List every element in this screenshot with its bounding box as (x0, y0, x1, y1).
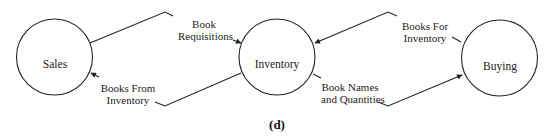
flow-label-books-from-inventory: Books From Inventory (100, 82, 156, 106)
flow-label-line: Books For (400, 20, 450, 32)
sales-node (17, 19, 93, 95)
flow-book-requisitions-line (90, 12, 173, 43)
flow-label-line: Requisitions (178, 30, 230, 42)
flow-book-names-line (378, 75, 462, 106)
flow-label-line: Inventory (100, 94, 156, 106)
flow-label-book-requisitions: Book Requisitions (178, 18, 230, 42)
flow-label-line: and Quantities (321, 93, 379, 105)
flow-label-line: Inventory (400, 32, 450, 44)
inventory-label: Inventory (255, 58, 300, 70)
inventory-node (239, 19, 315, 95)
figure-caption: (d) (269, 117, 285, 133)
buying-label: Buying (483, 60, 517, 72)
flow-label-line: Book (178, 18, 230, 30)
flow-label-line: Book Names (321, 81, 379, 93)
flow-label-books-for-inventory: Books For Inventory (400, 20, 450, 44)
flow-label-book-names-quantities: Book Names and Quantities (321, 81, 379, 105)
sales-label: Sales (43, 58, 67, 70)
buying-node (462, 20, 538, 96)
flow-book-names-tick (313, 74, 321, 78)
flow-books-from-inventory-line (155, 73, 241, 106)
flow-books-for-inventory-tick (452, 37, 461, 42)
flow-book-requisitions-arrow (233, 40, 241, 43)
flow-label-line: Books From (100, 82, 156, 94)
flow-books-for-inventory-line (315, 12, 397, 43)
flow-books-from-inventory-arrow (91, 73, 99, 77)
